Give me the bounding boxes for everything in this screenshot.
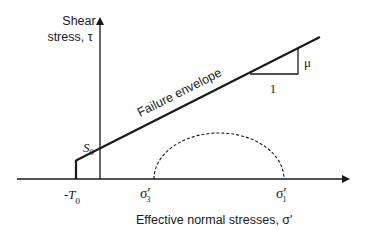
failure-envelope-line	[76, 37, 320, 161]
x-axis-label: Effective normal stresses, σ'	[136, 213, 292, 227]
slope-rise-label: μ	[304, 55, 311, 70]
y-axis-label-line1: Shear	[62, 14, 95, 28]
mohr-circle	[154, 133, 284, 179]
tensile-strength-label: -T0	[64, 187, 81, 206]
y-axis-label-line2: stress, τ	[47, 30, 92, 44]
mohr-diagram: Shear stress, τ Failure envelope μ 1 S0 …	[0, 0, 367, 231]
slope-run-label: 1	[270, 81, 277, 96]
sigma3-label: σ′3	[140, 186, 151, 204]
cohesion-label: S0	[83, 140, 95, 157]
sigma1-label: σ′1	[276, 186, 287, 204]
